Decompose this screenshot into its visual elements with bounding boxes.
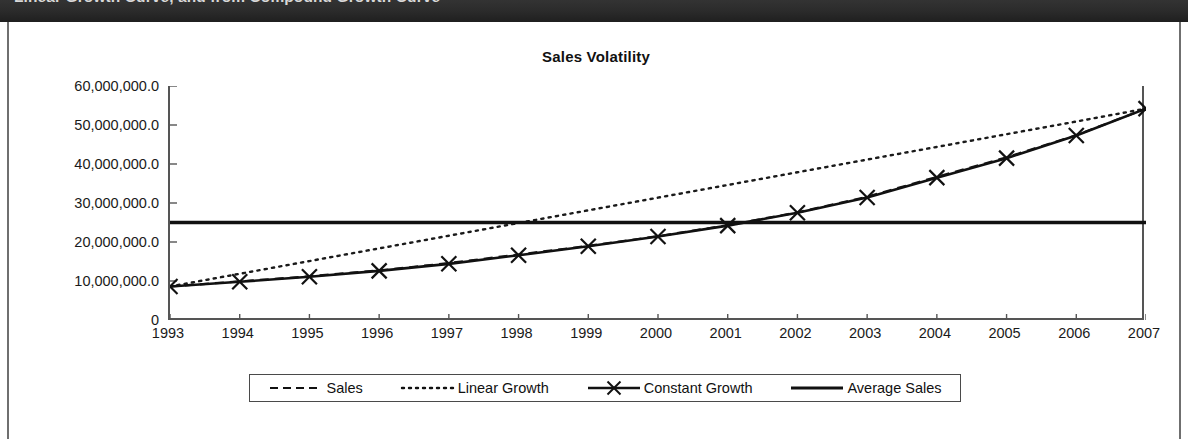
- legend-swatch-dotted: [400, 380, 456, 396]
- y-axis-labels: 60,000,000.050,000,000.040,000,000.030,0…: [29, 22, 159, 439]
- x-tick-label: 2002: [779, 325, 811, 341]
- x-tick-label: 2004: [919, 325, 951, 341]
- legend-item-average-sales[interactable]: Average Sales: [787, 380, 943, 396]
- chart-title: Sales Volatility: [9, 48, 1183, 65]
- x-tick-label: 1998: [500, 325, 532, 341]
- x-tick-label: 1997: [431, 325, 463, 341]
- x-tick-label: 2006: [1058, 325, 1090, 341]
- y-tick-label: 50,000,000.0: [74, 118, 159, 132]
- x-tick-label: 2007: [1128, 325, 1160, 341]
- x-tick-label: 1999: [570, 325, 602, 341]
- document-header-band: Linear Growth Curve, and from Compound G…: [0, 0, 1188, 22]
- legend-label: Sales: [326, 380, 362, 396]
- page-content-frame: Sales Volatility 60,000,000.050,000,000.…: [7, 22, 1181, 439]
- legend-swatch-solid: [586, 380, 642, 396]
- data-point-marker: [1069, 128, 1084, 143]
- chart-legend: SalesLinear GrowthConstant GrowthAverage…: [249, 374, 961, 402]
- x-tick-label: 2003: [849, 325, 881, 341]
- header-clipped-title: Linear Growth Curve, and from Compound G…: [14, 0, 440, 6]
- x-tick-label: 2005: [988, 325, 1020, 341]
- y-tick-label: 40,000,000.0: [74, 157, 159, 171]
- x-tick-label: 2001: [710, 325, 742, 341]
- legend-label: Linear Growth: [458, 380, 549, 396]
- y-tick-label: 60,000,000.0: [74, 79, 159, 93]
- series-linear-growth: [170, 109, 1146, 287]
- x-tick-label: 2000: [640, 325, 672, 341]
- y-tick-label: 20,000,000.0: [74, 235, 159, 249]
- legend-item-constant-growth[interactable]: Constant Growth: [584, 380, 755, 396]
- legend-label: Constant Growth: [644, 380, 753, 396]
- plot-area: [168, 86, 1144, 320]
- y-tick-label: 10,000,000.0: [74, 274, 159, 288]
- y-tick-label: 30,000,000.0: [74, 196, 159, 210]
- x-axis-labels: 1993199419951996199719981999200020012002…: [168, 325, 1144, 349]
- legend-swatch-solid-thick: [789, 380, 845, 396]
- legend-item-sales[interactable]: Sales: [266, 380, 364, 396]
- plot-canvas: [170, 86, 1146, 320]
- x-tick-label: 1996: [361, 325, 393, 341]
- legend-item-linear-growth[interactable]: Linear Growth: [398, 380, 551, 396]
- x-tick-label: 1994: [222, 325, 254, 341]
- sales-volatility-figure: Sales Volatility 60,000,000.050,000,000.…: [9, 22, 1183, 439]
- legend-swatch-dashed: [268, 380, 324, 396]
- x-tick-label: 1995: [291, 325, 323, 341]
- x-tick-label: 1993: [152, 325, 184, 341]
- legend-label: Average Sales: [847, 380, 941, 396]
